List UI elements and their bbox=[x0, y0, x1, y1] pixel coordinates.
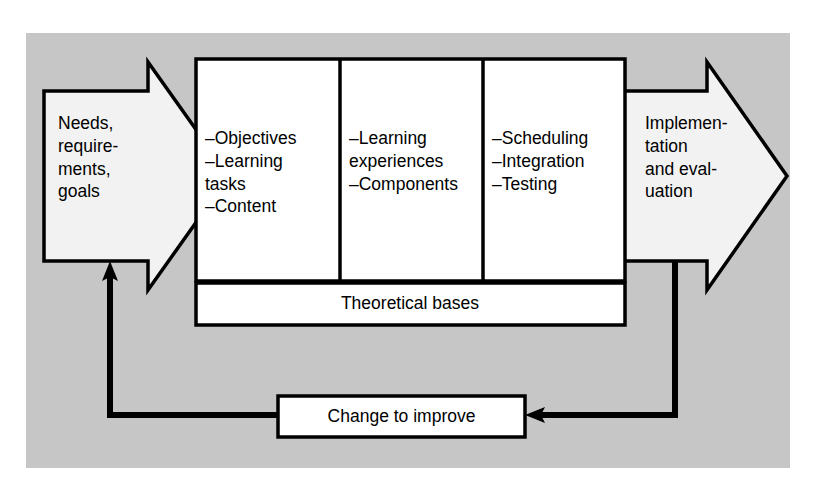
process-column-0-label: –Objectives –Learning tasks –Content bbox=[205, 127, 333, 218]
diagram-canvas: Needs, require- ments, goals Implemen- t… bbox=[0, 0, 814, 488]
foundation-bar-label: Theoretical bases bbox=[195, 292, 625, 315]
feedback-box-label: Change to improve bbox=[278, 405, 525, 428]
process-column-1-label: –Learning experiences –Components bbox=[349, 127, 485, 195]
input-arrow-label: Needs, require- ments, goals bbox=[58, 112, 170, 203]
output-arrow-label: Implemen- tation and eval- uation bbox=[645, 112, 765, 203]
process-column-2-label: –Scheduling –Integration –Testing bbox=[492, 127, 624, 195]
